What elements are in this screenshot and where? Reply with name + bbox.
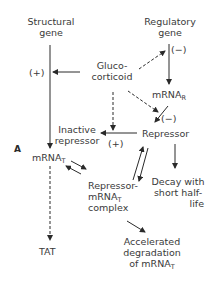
mrna-r-base: mRNA: [152, 89, 181, 100]
structural-gene-label: Structural gene: [26, 16, 76, 38]
structural-gene-line2: gene: [26, 27, 76, 38]
accelerated-degradation-label: Accelerated degradation of mRNAT: [122, 236, 182, 269]
decay-line1: Decay with: [150, 176, 206, 187]
regulatory-gene-line2: gene: [144, 27, 196, 38]
complex-line2-base: mRNA: [88, 191, 117, 202]
decay-line3: life: [150, 198, 206, 209]
regulatory-minus-sign: (−): [171, 44, 186, 55]
complex-to-mrnat-arrow: [66, 166, 81, 174]
repressor-to-complex-arrow: [139, 148, 148, 181]
complex-to-repressor-arrow: [133, 147, 143, 180]
complex-to-degradation-arrow: [127, 221, 145, 232]
regulatory-gene-label: Regulatory gene: [144, 16, 196, 38]
regulatory-gene-line1: Regulatory: [144, 16, 196, 27]
glucocorticoid-label: Gluco- corticoid: [88, 60, 136, 82]
accelerated-line3-subscript: T: [171, 263, 175, 271]
glucocorticoid-line2: corticoid: [88, 71, 136, 82]
mrna-t-base: mRNA: [32, 152, 61, 163]
gluco-to-regulatory-dashed-arrow: [139, 51, 165, 69]
mrnat-to-complex-arrow: [71, 161, 86, 169]
complex-line2: mRNAT: [88, 191, 138, 202]
tat-label: TAT: [39, 246, 56, 257]
complex-line3: complex: [88, 202, 138, 213]
mrna-r-subscript: R: [181, 94, 186, 102]
mrna-t-label: mRNAT: [32, 152, 65, 163]
accelerated-line2: degradation: [122, 247, 182, 258]
structural-plus-sign: (+): [29, 67, 44, 78]
diagram-canvas: Structural gene Regulatory gene (+) (−) …: [0, 0, 214, 288]
panel-letter: A: [14, 144, 21, 154]
accelerated-line3-base: of mRNA: [129, 258, 171, 269]
inactive-repressor-line1: Inactive: [54, 124, 100, 135]
inactive-repressor-line2: repressor: [54, 135, 100, 146]
repressor-label: Repressor: [142, 128, 189, 139]
inactive-plus-sign: (+): [108, 138, 123, 149]
decay-line2: short half-: [150, 187, 206, 198]
accelerated-line3: of mRNAT: [122, 258, 182, 269]
inactive-repressor-label: Inactive repressor: [54, 124, 100, 146]
decay-label: Decay with short half- life: [150, 176, 206, 209]
complex-line1: Repressor-: [88, 180, 138, 191]
structural-gene-line1: Structural: [26, 16, 76, 27]
repressor-minus-sign: (−): [161, 113, 176, 124]
accelerated-line1: Accelerated: [122, 236, 182, 247]
mrna-r-label: mRNAR: [152, 89, 186, 100]
repressor-mrnat-complex-label: Repressor- mRNAT complex: [88, 180, 138, 213]
mrna-t-subscript: T: [61, 157, 65, 165]
glucocorticoid-line1: Gluco-: [88, 60, 136, 71]
